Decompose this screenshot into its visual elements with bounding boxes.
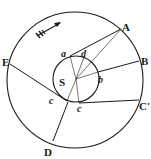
label-S: S bbox=[59, 76, 65, 88]
line-a-A bbox=[70, 29, 121, 56]
label-c-lower: c bbox=[77, 103, 82, 114]
label-E: E bbox=[2, 56, 9, 68]
sight-S-c1 bbox=[76, 79, 79, 103]
label-a: a bbox=[61, 48, 66, 59]
line-b-B bbox=[98, 61, 139, 72]
label-A: A bbox=[122, 21, 130, 33]
sight-S-d bbox=[76, 57, 84, 79]
label-c-left: c bbox=[49, 95, 54, 106]
orbit-diagram: S A B C' D E a d b c c bbox=[0, 0, 151, 159]
line-c-C bbox=[79, 100, 139, 103]
direction-arrow-icon bbox=[36, 22, 61, 38]
sight-S-c2 bbox=[67, 79, 76, 101]
label-d: d bbox=[81, 48, 87, 59]
label-B: B bbox=[141, 55, 149, 67]
label-b: b bbox=[98, 74, 103, 85]
label-C: C' bbox=[139, 100, 150, 112]
line-c-D bbox=[53, 102, 68, 141]
label-D: D bbox=[44, 146, 52, 158]
sight-S-a bbox=[70, 56, 76, 79]
